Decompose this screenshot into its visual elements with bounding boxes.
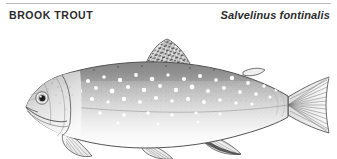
caudal-fin — [288, 75, 329, 133]
brook-trout-illustration — [0, 25, 337, 159]
eye — [36, 92, 48, 104]
scientific-name-label: Salvelinus fontinalis — [220, 9, 330, 21]
common-name-label: BROOK TROUT — [9, 9, 93, 21]
adipose-fin — [243, 68, 265, 76]
fish-identification-plate: BROOK TROUT Salvelinus fontinalis — [0, 0, 337, 159]
header-divider-rule — [6, 3, 331, 4]
head — [26, 71, 82, 139]
